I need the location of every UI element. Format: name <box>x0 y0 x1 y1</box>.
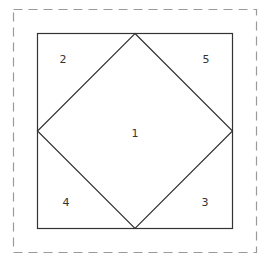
region-label-5: 5 <box>203 53 210 66</box>
region-label-2: 2 <box>60 53 67 66</box>
region-label-1: 1 <box>132 127 139 140</box>
quilt-block-diagram: 1 2 3 4 5 <box>0 0 261 263</box>
region-label-3: 3 <box>202 196 209 209</box>
region-label-4: 4 <box>63 196 70 209</box>
